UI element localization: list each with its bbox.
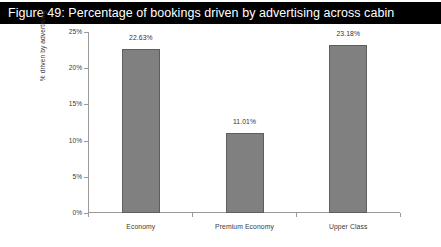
bar-economy[interactable] (122, 49, 160, 213)
bar-upper-class[interactable] (329, 45, 367, 213)
bar-value-label-premium-economy: 11.01% (233, 118, 256, 125)
figure-title-banner: Figure 49: Percentage of bookings driven… (0, 2, 441, 24)
y-tick-label-20: 20% (54, 65, 82, 72)
x-axis-label-premium-economy: Premium Economy (215, 223, 274, 230)
y-tick-label-0: 0% (54, 210, 82, 217)
figure-title-text: Figure 49: Percentage of bookings driven… (0, 6, 394, 20)
x-tick-mark-2 (296, 213, 297, 217)
x-tick-mark-1 (192, 213, 193, 217)
y-tick-label-15: 15% (54, 101, 82, 108)
bar-premium-economy[interactable] (226, 133, 264, 213)
bar-group-upper-class: 23.18% (296, 32, 400, 213)
y-tick-mark-10 (84, 141, 88, 142)
bar-value-label-economy: 22.63% (129, 34, 153, 41)
y-tick-mark-5 (84, 177, 88, 178)
y-tick-label-5: 5% (54, 174, 82, 181)
y-tick-mark-25 (84, 32, 88, 33)
plot-region: 22.63% 11.01% 23.18% (89, 32, 400, 213)
bar-group-premium-economy: 11.01% (193, 32, 297, 213)
x-tick-mark-end (400, 213, 401, 217)
x-tick-mark-start (88, 213, 89, 217)
x-axis-label-economy: Economy (126, 223, 155, 230)
bar-group-economy: 22.63% (89, 32, 193, 213)
bar-chart: % driven by advertising 0% 5% 10% 15% 20… (0, 24, 441, 247)
y-tick-mark-15 (84, 104, 88, 105)
y-tick-mark-20 (84, 68, 88, 69)
y-tick-label-25: 25% (54, 29, 82, 36)
y-axis-title: % driven by advertising (39, 0, 51, 96)
y-tick-label-10: 10% (54, 137, 82, 144)
bar-value-label-upper-class: 23.18% (336, 30, 360, 37)
x-axis-label-upper-class: Upper Class (329, 223, 368, 230)
y-axis-tick-labels: 0% 5% 10% 15% 20% 25% (54, 24, 82, 247)
